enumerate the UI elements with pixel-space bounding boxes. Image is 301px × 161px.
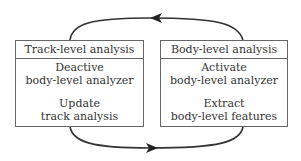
track-level-analysis-title: Track-level analysis: [16, 41, 143, 59]
step-line: track analysis: [16, 110, 143, 123]
top-arrow-curve: [70, 18, 243, 40]
step-line: Deactive: [16, 61, 143, 74]
step-line: body-level analyzer: [16, 74, 143, 87]
bottom-arrow-curve: [70, 127, 243, 148]
step-line: body-level features: [161, 110, 287, 123]
step-line: Activate: [161, 61, 287, 74]
step-line: Update: [16, 97, 143, 110]
extract-features-step: Extract body-level features: [161, 97, 287, 123]
activate-analyzer-step: Activate body-level analyzer: [161, 61, 287, 87]
body-level-analysis-title: Body-level analysis: [161, 41, 287, 59]
body-level-analysis-box: Body-level analysis Activate body-level …: [160, 40, 288, 127]
step-line: body-level analyzer: [161, 74, 287, 87]
update-track-analysis-step: Update track analysis: [16, 97, 143, 123]
deactive-analyzer-step: Deactive body-level analyzer: [16, 61, 143, 87]
step-line: Extract: [161, 97, 287, 110]
track-level-analysis-box: Track-level analysis Deactive body-level…: [15, 40, 144, 127]
